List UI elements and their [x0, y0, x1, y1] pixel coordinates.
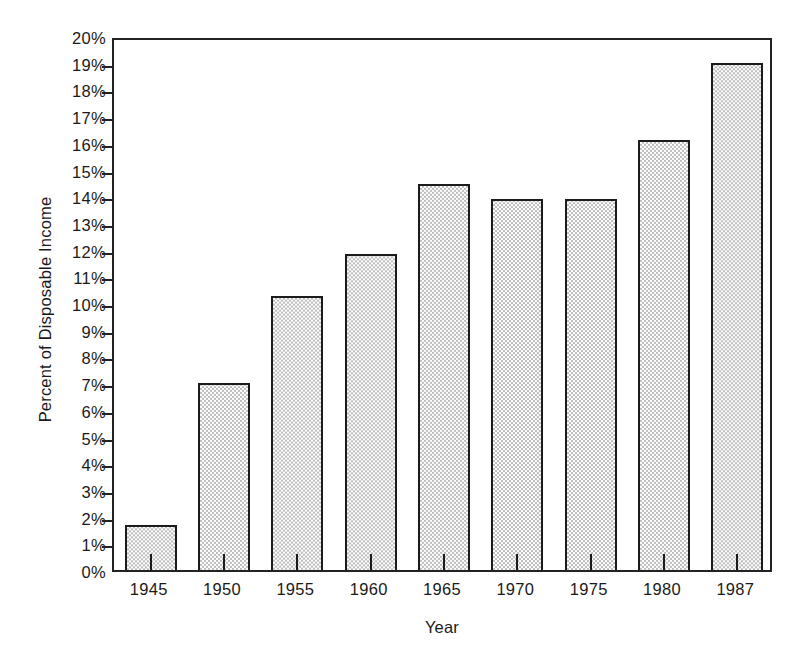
x-axis-tick-mark: [590, 554, 592, 570]
y-tick-label: 17%: [28, 110, 106, 127]
y-tick-label: 20%: [28, 30, 106, 47]
y-tick-label: 6%: [28, 404, 106, 421]
bar-1970: [491, 199, 543, 570]
x-tick-label: 1960: [329, 580, 409, 598]
y-tick-label: 1%: [28, 537, 106, 554]
y-axis-tick-mark: [102, 333, 114, 335]
y-axis-tick-mark: [102, 199, 114, 201]
x-tick-label: 1950: [182, 580, 262, 598]
y-tick-label: 9%: [28, 323, 106, 340]
y-tick-label: 0%: [28, 564, 106, 581]
x-tick-label: 1980: [622, 580, 702, 598]
bar-1950: [198, 383, 250, 570]
x-tick-label: 1987: [695, 580, 775, 598]
y-axis-tick-mark: [102, 92, 114, 94]
x-axis-tick-mark: [443, 554, 445, 570]
x-axis-tick-mark: [663, 554, 665, 570]
bar-chart: Percent of Disposable Income 0%1%2%3%4%5…: [0, 0, 806, 656]
y-tick-label: 13%: [28, 217, 106, 234]
y-axis-tick-mark: [102, 253, 114, 255]
y-axis-tick-mark: [102, 226, 114, 228]
y-axis-tick-mark: [102, 493, 114, 495]
y-axis-tick-mark: [102, 279, 114, 281]
x-axis-tick-mark: [296, 554, 298, 570]
y-tick-label: 16%: [28, 137, 106, 154]
y-axis-tick-mark: [102, 146, 114, 148]
x-axis-tick-labels: 194519501955196019651970197519801987: [112, 580, 772, 606]
y-axis-tick-mark: [102, 520, 114, 522]
bar-1987: [711, 63, 763, 570]
x-axis-tick-mark: [223, 554, 225, 570]
y-tick-label: 3%: [28, 484, 106, 501]
y-tick-label: 5%: [28, 430, 106, 447]
x-axis-tick-mark: [150, 554, 152, 570]
y-axis-tick-mark: [102, 306, 114, 308]
x-axis-tick-mark: [736, 554, 738, 570]
x-axis-tick-mark: [370, 554, 372, 570]
y-tick-label: 11%: [28, 270, 106, 287]
x-tick-label: 1965: [402, 580, 482, 598]
bars-layer: [114, 40, 770, 570]
bar-1960: [345, 254, 397, 570]
y-axis-tick-mark: [102, 440, 114, 442]
x-tick-label: 1970: [475, 580, 555, 598]
y-tick-label: 14%: [28, 190, 106, 207]
bar-1980: [638, 140, 690, 570]
y-tick-label: 12%: [28, 243, 106, 260]
y-axis-tick-mark: [102, 359, 114, 361]
y-axis-tick-mark: [102, 413, 114, 415]
y-axis-tick-mark: [102, 546, 114, 548]
x-axis-tick-mark: [516, 554, 518, 570]
y-tick-label: 18%: [28, 83, 106, 100]
y-tick-label: 10%: [28, 297, 106, 314]
bar-1975: [565, 199, 617, 570]
x-tick-label: 1945: [109, 580, 189, 598]
x-tick-label: 1975: [549, 580, 629, 598]
y-tick-label: 7%: [28, 377, 106, 394]
y-axis-tick-mark: [102, 119, 114, 121]
y-axis-tick-mark: [102, 173, 114, 175]
y-tick-label: 2%: [28, 510, 106, 527]
y-tick-label: 15%: [28, 163, 106, 180]
y-tick-label: 19%: [28, 56, 106, 73]
bar-1955: [271, 296, 323, 570]
bar-1965: [418, 184, 470, 570]
x-tick-label: 1955: [255, 580, 335, 598]
y-axis-tick-mark: [102, 66, 114, 68]
y-axis-tick-mark: [102, 386, 114, 388]
y-axis-tick-labels: 0%1%2%3%4%5%6%7%8%9%10%11%12%13%14%15%16…: [28, 38, 106, 572]
y-tick-label: 8%: [28, 350, 106, 367]
y-axis-tick-mark: [102, 466, 114, 468]
plot-area: [112, 38, 772, 572]
y-tick-label: 4%: [28, 457, 106, 474]
x-axis-title: Year: [112, 618, 772, 637]
